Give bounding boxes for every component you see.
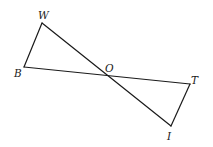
- vertex-label-i: I: [166, 130, 172, 142]
- segment-wi: [42, 23, 171, 126]
- vertex-label-o: O: [105, 62, 114, 74]
- segment-wb: [24, 23, 42, 67]
- vertex-label-b: B: [13, 67, 22, 79]
- vertex-label-t: T: [191, 74, 199, 86]
- geometry-diagram: WBOTI: [0, 0, 213, 147]
- diagram-segments: [24, 23, 190, 126]
- vertex-label-w: W: [38, 9, 50, 21]
- segment-ti: [171, 84, 190, 126]
